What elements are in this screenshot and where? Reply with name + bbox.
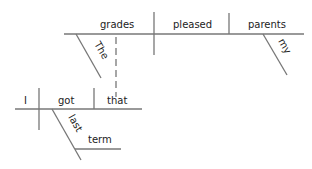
the-modifier-line — [76, 34, 101, 78]
word-that: that — [107, 95, 127, 106]
sentence-diagram: grades pleased parents The my I got that… — [0, 0, 312, 169]
word-parents: parents — [248, 19, 286, 30]
word-got: got — [58, 95, 74, 106]
word-i: I — [24, 95, 27, 106]
word-grades: grades — [100, 19, 134, 30]
word-my: my — [276, 37, 293, 56]
word-term: term — [88, 134, 112, 145]
word-pleased: pleased — [173, 19, 212, 30]
word-the: The — [92, 39, 111, 61]
word-last: last — [66, 113, 85, 134]
